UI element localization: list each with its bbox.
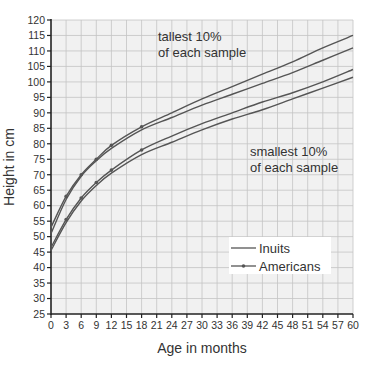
x-tick-label: 21 [151, 319, 163, 331]
x-tick-label: 51 [302, 319, 314, 331]
annotation-smallest-line1: smallest 10% [250, 144, 328, 159]
series-marker [140, 125, 144, 129]
y-tick-label: 45 [33, 246, 45, 258]
legend-americans-marker-icon [242, 264, 246, 268]
y-tick-label: 70 [33, 169, 45, 181]
x-tick-label: 45 [272, 319, 284, 331]
x-tick-label: 54 [317, 319, 329, 331]
growth-chart: 2530354045505560657075808590951001051101… [0, 0, 368, 366]
y-tick-label: 80 [33, 138, 45, 150]
x-tick-label: 15 [121, 319, 133, 331]
y-tick-label: 85 [33, 122, 45, 134]
x-tick-label: 48 [287, 319, 299, 331]
y-tick-label: 55 [33, 215, 45, 227]
x-tick-label: 33 [211, 319, 223, 331]
y-tick-label: 90 [33, 107, 45, 119]
x-tick-label: 57 [332, 319, 344, 331]
x-tick-label: 42 [257, 319, 269, 331]
x-tick-label: 60 [347, 319, 359, 331]
series-marker [110, 168, 114, 172]
y-tick-label: 100 [27, 76, 45, 88]
x-tick-label: 39 [241, 319, 253, 331]
y-tick-label: 65 [33, 184, 45, 196]
x-axis-title: Age in months [157, 340, 247, 356]
annotation-smallest-line2: of each sample [250, 160, 338, 175]
x-tick-label: 27 [181, 319, 193, 331]
y-tick-label: 105 [27, 60, 45, 72]
legend-americans-label: Americans [259, 259, 321, 274]
y-tick-label: 120 [27, 14, 45, 26]
annotation-smallest: smallest 10% of each sample [250, 144, 338, 175]
series-marker [110, 144, 114, 148]
y-tick-label: 50 [33, 230, 45, 242]
x-tick-label: 18 [136, 319, 148, 331]
y-tick-label: 30 [33, 292, 45, 304]
y-tick-label: 110 [28, 45, 45, 57]
legend-inuits-label: Inuits [259, 241, 291, 256]
y-axis-title: Height in cm [1, 128, 17, 206]
legend: Inuits Americans [229, 237, 331, 274]
y-tick-label: 25 [33, 308, 45, 320]
y-tick-label: 75 [33, 153, 45, 165]
x-tick-label: 6 [78, 319, 84, 331]
x-axis-ticks: 03691215182124273033363942454851545760 [48, 314, 359, 331]
x-tick-label: 12 [106, 319, 118, 331]
annotation-tallest-line2: of each sample [158, 45, 246, 60]
y-tick-label: 115 [28, 29, 45, 41]
x-tick-label: 36 [226, 319, 238, 331]
x-tick-label: 30 [196, 319, 208, 331]
x-tick-label: 24 [166, 319, 178, 331]
y-axis-ticks: 2530354045505560657075808590951001051101… [27, 14, 51, 320]
y-tick-label: 40 [33, 261, 45, 273]
y-tick-label: 35 [33, 277, 45, 289]
x-tick-label: 9 [93, 319, 99, 331]
x-tick-label: 3 [63, 319, 69, 331]
x-tick-label: 0 [48, 319, 54, 331]
series-marker [140, 148, 144, 152]
y-tick-label: 95 [33, 91, 45, 103]
annotation-tallest-line1: tallest 10% [158, 29, 222, 44]
y-tick-label: 60 [33, 199, 45, 211]
